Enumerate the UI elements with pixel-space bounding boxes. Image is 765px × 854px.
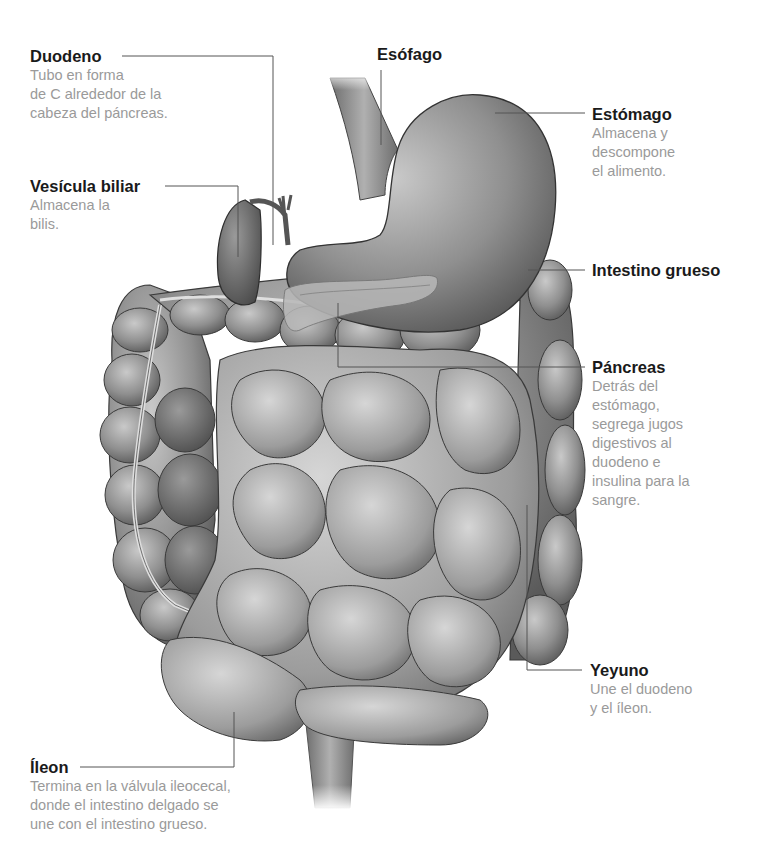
label-duodeno: Duodeno Tubo en forma de C alrededor de … bbox=[30, 46, 168, 123]
label-yeyuno: Yeyuno Une el duodeno y el íleon. bbox=[590, 660, 692, 718]
label-title: Estómago bbox=[592, 104, 675, 124]
label-intestino-grueso: Intestino grueso bbox=[592, 260, 720, 280]
label-estomago: Estómago Almacena y descompone el alimen… bbox=[592, 104, 675, 181]
esophagus bbox=[325, 70, 398, 200]
label-description: Almacena la bilis. bbox=[30, 196, 140, 234]
small-intestine bbox=[161, 346, 538, 745]
label-title: Yeyuno bbox=[590, 660, 692, 680]
label-title: Duodeno bbox=[30, 46, 168, 66]
label-ileon: Íleon Termina en la válvula ileocecal, d… bbox=[30, 757, 231, 834]
label-pancreas: Páncreas Detrás del estómago, segrega ju… bbox=[592, 357, 690, 510]
label-description: Une el duodeno y el íleon. bbox=[590, 680, 692, 718]
label-description: Detrás del estómago, segrega jugos diges… bbox=[592, 377, 690, 510]
label-title: Páncreas bbox=[592, 357, 690, 377]
label-vesicula-biliar: Vesícula biliar Almacena la bilis. bbox=[30, 176, 140, 234]
label-description: Termina en la válvula ileocecal, donde e… bbox=[30, 777, 231, 834]
label-description: Almacena y descompone el alimento. bbox=[592, 124, 675, 181]
label-title: Esófago bbox=[377, 44, 442, 64]
label-description: Tubo en forma de C alrededor de la cabez… bbox=[30, 66, 168, 123]
label-title: Íleon bbox=[30, 757, 231, 777]
label-title: Intestino grueso bbox=[592, 260, 720, 280]
label-title: Vesícula biliar bbox=[30, 176, 140, 196]
label-esofago: Esófago bbox=[377, 44, 442, 64]
